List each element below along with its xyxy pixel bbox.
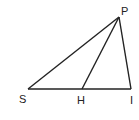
segment-pi: [119, 17, 131, 89]
triangle-diagram: P S H I: [0, 0, 139, 120]
label-i: I: [130, 94, 133, 106]
segment-ph: [82, 17, 119, 89]
label-p: P: [121, 5, 128, 17]
label-s: S: [19, 93, 26, 105]
segment-sp: [28, 17, 119, 89]
label-h: H: [77, 94, 85, 106]
